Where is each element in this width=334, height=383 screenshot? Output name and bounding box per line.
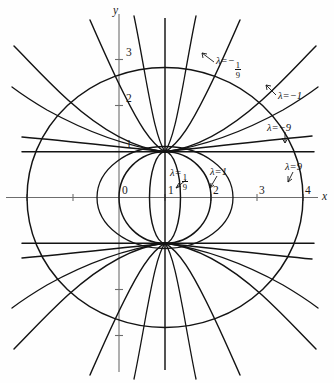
label-lambda-1-9-fraction: 19 [182, 173, 188, 191]
fraction-numerator: 1 [235, 61, 241, 69]
fraction-denominator: 9 [182, 183, 188, 191]
hyperbola-steep-extra-lower-left [134, 243, 165, 379]
hyperbola-shallow-extra-lower-left [12, 243, 165, 308]
label-lambda-1-9: λ=19 [170, 168, 188, 191]
hyperbola-lambda-neg-1-9-lower-left [90, 243, 165, 375]
label-lambda-neg-1-9-fraction: 19 [235, 61, 241, 79]
y-tick-label-2: 2 [126, 92, 132, 104]
label-lambda-1-9-text: λ= [170, 167, 182, 178]
x-tick-label-0: 0 [122, 184, 128, 196]
fraction-numerator: 1 [182, 173, 188, 181]
x-tick-label-4: 4 [305, 184, 311, 196]
label-lambda-1-text: λ=1 [210, 166, 227, 177]
leader-lambda-neg-1 [266, 85, 276, 95]
hyperbola-steep-extra-upper-left [134, 16, 165, 152]
y-axis-label: y [112, 4, 119, 17]
hyperbola-lambda-neg-1-9-upper-left [90, 20, 165, 152]
y-tick-label-1: 1 [126, 138, 132, 150]
label-lambda-neg-9: λ=−9 [267, 123, 291, 134]
label-lambda-neg-1-9: λ=−19 [216, 56, 241, 79]
y-tick-label-3: 3 [126, 46, 132, 58]
conics-figure: 0 1 2 3 4 1 2 3 x y λ=−19 λ=−1 λ=−9 λ=9 … [0, 0, 334, 383]
leader-lambda-neg-1-9 [202, 53, 214, 62]
label-lambda-neg-1-text: λ=−1 [278, 90, 302, 101]
label-lambda-9-text: λ=9 [285, 161, 302, 172]
fraction-denominator: 9 [235, 71, 241, 79]
label-lambda-9: λ=9 [285, 162, 302, 173]
label-lambda-1: λ=1 [210, 167, 227, 178]
hyperbola-steep-extra-upper-right [165, 16, 196, 152]
conics-plot-canvas: 0 1 2 3 4 1 2 3 x y [0, 0, 334, 383]
hyperbola-steep-extra-lower-right [165, 243, 196, 379]
hyperbola-shallow-extra-upper-left [12, 87, 165, 152]
label-lambda-neg-1: λ=−1 [278, 91, 302, 102]
label-lambda-neg-1-9-text: λ=− [216, 55, 235, 66]
x-axis-label: x [321, 190, 328, 202]
x-tick-label-2: 2 [213, 184, 219, 196]
label-lambda-neg-9-text: λ=−9 [267, 122, 291, 133]
hyperbola-shallow-extra-lower-right [165, 243, 318, 308]
x-tick-label-3: 3 [259, 184, 265, 196]
hyperbola-lambda-neg-1-9-lower-right [165, 243, 240, 375]
hyperbola-lambda-neg-1-9-upper-right [165, 20, 240, 152]
